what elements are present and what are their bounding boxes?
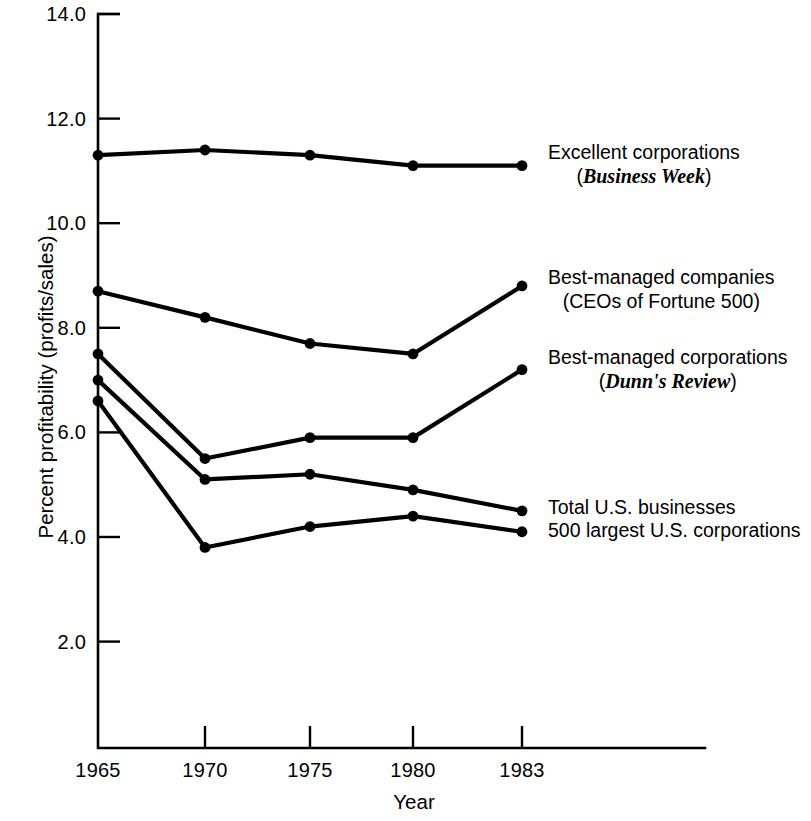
data-point: [517, 505, 528, 516]
data-point: [305, 521, 316, 532]
data-point: [408, 349, 419, 360]
annotation-title: Best-managed companies: [548, 266, 775, 288]
annotation-source-italic: Business Week: [583, 165, 705, 187]
y-axis-title: Percent profitability (profits/sales): [34, 127, 58, 647]
annotation-source: (Business Week): [548, 164, 740, 188]
annotation-title: Excellent corporations: [548, 141, 740, 163]
x-tick-label: 1975: [260, 760, 360, 780]
data-point: [200, 542, 211, 553]
x-axis-title: Year: [354, 790, 474, 814]
data-point: [200, 474, 211, 485]
series-annotation: 500 largest U.S. corporations: [548, 518, 801, 542]
annotation-source-italic: Dunn's Review: [605, 370, 730, 392]
axis-ticks: [98, 14, 522, 748]
data-point: [305, 432, 316, 443]
annotation-source: (CEOs of Fortune 500): [548, 289, 775, 313]
data-point: [200, 145, 211, 156]
data-point: [408, 485, 419, 496]
data-point: [408, 160, 419, 171]
chart-figure: 2.04.06.08.010.012.014.0 196519701975198…: [0, 0, 811, 821]
data-point: [93, 396, 104, 407]
data-point: [517, 160, 528, 171]
y-tick-label: 12.0: [2, 109, 86, 129]
y-tick-label: 14.0: [2, 4, 86, 24]
series-annotation: Total U.S. businesses: [548, 495, 736, 519]
plot-area: [0, 0, 811, 821]
series-annotation: Excellent corporations(Business Week): [548, 140, 740, 188]
data-point: [517, 281, 528, 292]
data-series: [93, 145, 528, 553]
annotation-paren-close: ): [730, 370, 737, 392]
data-point: [200, 312, 211, 323]
data-point: [408, 432, 419, 443]
annotation-title: Total U.S. businesses: [548, 496, 736, 518]
data-point: [517, 364, 528, 375]
annotation-source: (Dunn's Review): [548, 369, 788, 393]
data-point: [517, 526, 528, 537]
data-point: [93, 375, 104, 386]
data-point: [93, 150, 104, 161]
annotation-title: Best-managed corporations: [548, 346, 788, 368]
x-tick-label: 1983: [472, 760, 572, 780]
data-point: [93, 286, 104, 297]
data-point: [93, 349, 104, 360]
annotation-paren-close: ): [705, 165, 712, 187]
series-annotation: Best-managed corporations(Dunn's Review): [548, 345, 788, 393]
x-tick-label: 1980: [363, 760, 463, 780]
data-point: [408, 511, 419, 522]
data-point: [305, 469, 316, 480]
data-point: [305, 338, 316, 349]
data-point: [305, 150, 316, 161]
annotation-title: 500 largest U.S. corporations: [548, 519, 801, 541]
x-tick-label: 1970: [155, 760, 255, 780]
series-annotation: Best-managed companies(CEOs of Fortune 5…: [548, 265, 775, 313]
data-point: [200, 453, 211, 464]
x-tick-label: 1965: [48, 760, 148, 780]
